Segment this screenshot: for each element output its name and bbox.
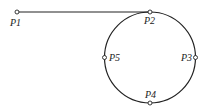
label-p1: P1 bbox=[9, 17, 21, 28]
path-diagram: P1 P2 P3 P4 P5 bbox=[0, 0, 213, 111]
label-p4: P4 bbox=[144, 89, 156, 100]
label-p3: P3 bbox=[180, 52, 192, 63]
point-p1-marker bbox=[15, 10, 19, 14]
point-p2-marker bbox=[148, 10, 152, 14]
label-p5: P5 bbox=[108, 52, 120, 63]
point-p5-marker bbox=[103, 56, 107, 60]
point-p3-marker bbox=[194, 56, 198, 60]
point-p4-marker bbox=[148, 101, 152, 105]
label-p2: P2 bbox=[143, 15, 155, 26]
